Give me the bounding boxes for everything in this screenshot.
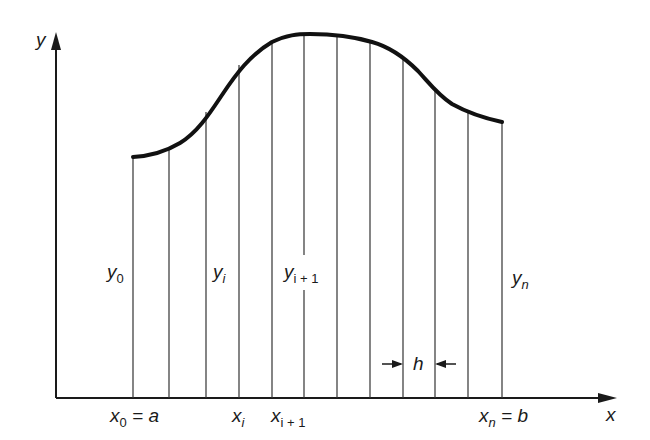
- label-xi+1: xi + 1: [271, 406, 305, 429]
- label-yi+1: yi + 1: [284, 262, 318, 285]
- label-yi: yi: [213, 262, 225, 285]
- y-axis-label: y: [36, 30, 46, 49]
- arrow-left-icon: [435, 360, 446, 368]
- x-axis-arrow-icon: [598, 393, 617, 403]
- arrow-right-icon: [392, 360, 403, 368]
- ordinate-lines: [133, 35, 502, 398]
- label-xi: xi: [232, 406, 244, 429]
- diagram-canvas: [0, 0, 650, 440]
- label-xn-b: xn = b: [479, 406, 528, 429]
- x-axis-label: x: [606, 405, 616, 424]
- label-x0-a: x0 = a: [110, 406, 159, 429]
- y-axis-arrow-icon: [51, 32, 61, 50]
- function-curve: [133, 34, 502, 157]
- label-h: h: [413, 354, 424, 373]
- label-yn: yn: [512, 268, 529, 291]
- label-y0: y0: [107, 262, 124, 285]
